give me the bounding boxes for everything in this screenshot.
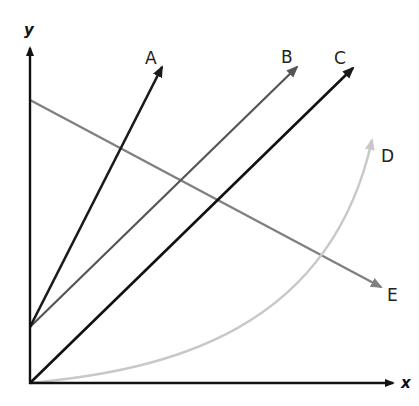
line-e-label: E — [387, 285, 398, 305]
line-e — [30, 100, 381, 287]
line-b-label: B — [281, 47, 293, 67]
curve-d — [30, 140, 372, 383]
line-graph-diagram: y x A B C D E — [0, 0, 419, 406]
line-b — [30, 67, 297, 327]
curve-d-label: D — [381, 146, 394, 166]
line-a-label: A — [145, 48, 157, 68]
y-axis-label: y — [24, 21, 35, 39]
line-c — [30, 68, 353, 383]
x-axis-label: x — [400, 374, 412, 392]
line-a — [30, 67, 162, 327]
line-c-label: C — [334, 48, 346, 68]
